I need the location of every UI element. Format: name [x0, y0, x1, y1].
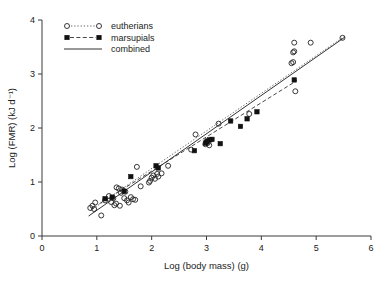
fit-line-marsupials: [100, 80, 297, 203]
data-point-marsupial: [228, 119, 232, 123]
legend-label-combined: combined: [111, 44, 150, 54]
data-point-marsupial: [245, 117, 249, 121]
legend-marker-marsupials: [65, 35, 69, 39]
legend-label-eutherians: eutherians: [111, 21, 154, 31]
y-axis-title: Log (FMR) (kJ d⁻¹): [6, 88, 17, 168]
x-tick-label: 6: [368, 243, 373, 253]
data-point-eutherian: [193, 132, 198, 137]
legend-marker-eutherians: [65, 24, 70, 29]
x-tick-label: 3: [204, 243, 209, 253]
x-tick-label: 2: [149, 243, 154, 253]
data-point-marsupial: [192, 148, 196, 152]
data-point-eutherian: [293, 89, 298, 94]
data-point-eutherian: [138, 184, 143, 189]
data-point-eutherian: [166, 163, 171, 168]
y-tick-label: 1: [30, 177, 35, 187]
data-point-eutherian: [292, 49, 297, 54]
fit-lines: [89, 36, 345, 216]
y-tick-label: 3: [30, 69, 35, 79]
data-point-marsupial: [122, 189, 126, 193]
fit-line-combined: [89, 37, 345, 216]
fit-line-eutherians: [90, 36, 344, 210]
data-point-eutherian: [99, 213, 104, 218]
data-point-marsupial: [292, 78, 296, 82]
x-tick-label: 0: [39, 243, 44, 253]
data-point-eutherian: [93, 200, 98, 205]
data-point-marsupial: [129, 174, 133, 178]
legend-marker-marsupials: [97, 35, 101, 39]
data-point-marsupial: [156, 166, 160, 170]
data-point-marsupial: [218, 141, 222, 145]
legend-marker-eutherians: [97, 24, 102, 29]
figure-container: 0123456 01234 Log (body mass) (g) Log (F…: [0, 0, 381, 281]
chart-legend: eutheriansmarsupialscombined: [64, 21, 155, 54]
data-point-eutherian: [117, 203, 122, 208]
data-point-marsupial: [210, 137, 214, 141]
data-point-marsupial: [110, 195, 114, 199]
data-point-marsupial: [103, 197, 107, 201]
y-axis-ticks: 01234: [30, 15, 42, 241]
y-tick-label: 0: [30, 231, 35, 241]
data-point-marsupial: [238, 124, 242, 128]
x-tick-label: 4: [259, 243, 264, 253]
data-point-eutherian: [134, 164, 139, 169]
x-axis-title: Log (body mass) (g): [164, 260, 249, 271]
x-tick-label: 1: [94, 243, 99, 253]
y-tick-label: 4: [30, 15, 35, 25]
marsupials-data-points: [103, 78, 297, 201]
fmr-body-mass-scatter-chart: 0123456 01234 Log (body mass) (g) Log (F…: [0, 0, 381, 281]
data-point-eutherian: [291, 60, 296, 65]
x-axis-ticks: 0123456: [39, 236, 373, 253]
data-point-marsupial: [255, 110, 259, 114]
data-point-eutherian: [247, 111, 252, 116]
caption-ghost-row: [0, 272, 381, 281]
data-point-eutherian: [292, 40, 297, 45]
legend-label-marsupials: marsupials: [111, 33, 155, 43]
x-tick-label: 5: [314, 243, 319, 253]
data-point-eutherian: [308, 40, 313, 45]
y-tick-label: 2: [30, 123, 35, 133]
